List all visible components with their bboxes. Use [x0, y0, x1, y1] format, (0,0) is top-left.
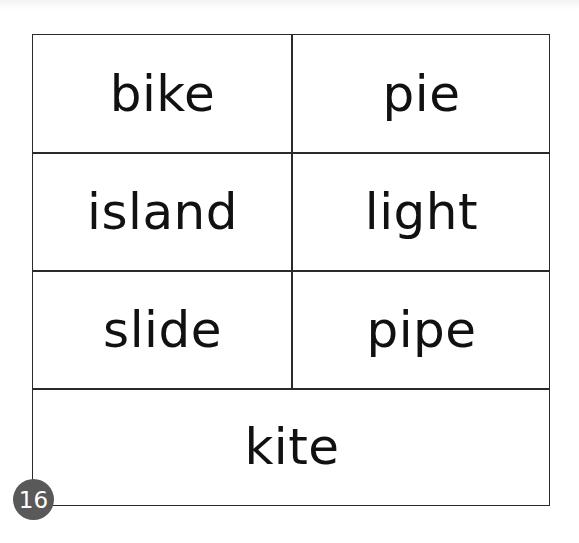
word-table: bike pie island light slide pipe kite [32, 34, 550, 506]
word-cell: slide [33, 271, 292, 388]
word-cell: bike [33, 35, 292, 152]
word-cell: pie [292, 35, 551, 152]
word-cell: island [33, 153, 292, 270]
word-cell-wide: kite [33, 389, 551, 505]
page-top-shadow [0, 0, 579, 10]
page-number-badge: 16 [13, 479, 54, 520]
word-cell: pipe [292, 271, 551, 388]
word-cell: light [292, 153, 551, 270]
